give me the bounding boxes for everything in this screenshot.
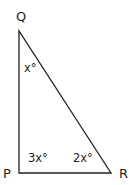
vertex-label-p: P xyxy=(3,166,11,181)
vertex-label-q: Q xyxy=(16,9,26,24)
triangle-diagram: Q P R x° 3x° 2x° xyxy=(0,0,135,185)
angle-label-r: 2x° xyxy=(73,151,93,165)
angle-label-p: 3x° xyxy=(28,151,48,165)
angle-label-q: x° xyxy=(24,61,37,75)
vertex-label-r: R xyxy=(119,166,128,181)
